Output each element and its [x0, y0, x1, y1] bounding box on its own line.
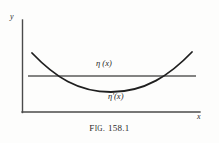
eta-prime-curve — [32, 52, 192, 92]
figure-caption: FIG. 158.1 — [0, 124, 219, 133]
x-axis-label: x — [197, 113, 201, 121]
figure-container: y x η (x) η'(x) FIG. 158.1 — [0, 0, 219, 143]
eta-curve-label: η (x) — [96, 59, 112, 68]
y-axis-label: y — [10, 13, 14, 21]
plot-canvas — [0, 0, 219, 143]
eta-prime-curve-label: η'(x) — [108, 92, 123, 101]
caption-smallcaps: IG — [95, 125, 103, 133]
caption-number: . 158.1 — [103, 123, 130, 133]
